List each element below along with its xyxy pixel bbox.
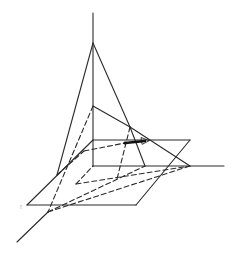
base-dashed-4 — [76, 166, 93, 184]
apex-right-edge — [93, 43, 130, 127]
geometry-diagram: r — [0, 0, 237, 256]
mid-left-dashed — [57, 151, 84, 175]
apex-to-axis-edge — [130, 127, 190, 166]
vector-origin-point — [123, 141, 126, 144]
inner-front-dashed — [117, 127, 130, 179]
inner-left-dashed — [48, 106, 93, 212]
corner-label: r — [20, 203, 22, 210]
inner-right-edge — [130, 127, 145, 166]
diagram-svg — [0, 0, 237, 256]
apex-left-edge — [57, 43, 93, 175]
diagonal-axis — [17, 212, 48, 242]
base-dashed-3 — [76, 166, 190, 184]
plane-right-edge — [136, 140, 190, 205]
inner-top-edge — [93, 106, 130, 127]
mid-dashed — [84, 143, 125, 151]
